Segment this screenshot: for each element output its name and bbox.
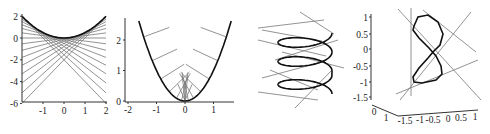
y-tick-label: -1 xyxy=(416,115,424,125)
y-tick-label: 2 xyxy=(116,36,121,46)
plot-1-tangent-parabola: 20-2-4-6-1012 xyxy=(10,12,109,116)
normal-segment xyxy=(201,27,227,36)
x-tick-label: 0 xyxy=(183,105,188,115)
plot-3-tangent-lines xyxy=(258,12,344,108)
plot-4-axes: 10.50-0.5-1-1.501-1.5-1-0.500.51 xyxy=(353,13,478,127)
y-tick-label: 1 xyxy=(473,112,478,122)
tangent-line xyxy=(396,60,478,94)
y-tick-label: -1.5 xyxy=(397,116,412,126)
z-tick-label: -1.5 xyxy=(353,93,368,103)
y-tick-label: 2 xyxy=(13,12,18,22)
y-tick-label: 0.5 xyxy=(455,113,467,123)
y-tick-label: -6 xyxy=(10,99,18,109)
plot-2-normal-lines xyxy=(144,27,227,100)
y-tick-label: -0.5 xyxy=(425,115,440,125)
y-tick-label: 0 xyxy=(13,34,18,44)
y-tick-label: -4 xyxy=(10,77,18,87)
x-tick-label: -2 xyxy=(124,105,132,115)
plot-4-figure-eight-curve xyxy=(413,15,443,83)
z-tick-label: -1 xyxy=(360,78,368,88)
x-tick-label: 1 xyxy=(83,106,88,116)
tangent-line xyxy=(300,12,334,34)
x-tick-label: 0 xyxy=(62,106,67,116)
plot-1-tangent-lines xyxy=(22,16,106,103)
plot-4-figure-eight: 10.50-0.5-1-1.501-1.5-1-0.500.51 xyxy=(353,8,481,126)
z-tick-label: 1 xyxy=(363,13,368,23)
normal-segment xyxy=(144,27,170,36)
normal-segment xyxy=(186,64,209,79)
x-tick-label: -1 xyxy=(39,106,47,116)
x-tick-label: 2 xyxy=(104,106,109,116)
normal-segment xyxy=(152,49,177,61)
z-tick-label: 0 xyxy=(363,45,368,55)
x-tick-label: -1 xyxy=(153,105,161,115)
normal-segment xyxy=(193,49,218,61)
y-tick-label: 0 xyxy=(446,114,451,124)
z-tick-label: -0.5 xyxy=(353,62,368,72)
tangent-line xyxy=(258,40,326,56)
x-tick-label: 0 xyxy=(372,107,377,117)
plot-3-helix xyxy=(258,12,344,108)
plot-2-normal-parabola: 210-2-101 xyxy=(116,18,234,115)
x-tick-label: 1 xyxy=(211,105,216,115)
y-tick-label: -2 xyxy=(10,55,18,65)
z-tick-label: 0.5 xyxy=(356,30,368,40)
x-tick-label: 1 xyxy=(384,113,389,123)
plot-2-axes: 210-2-101 xyxy=(116,18,234,115)
normal-segment xyxy=(161,64,184,79)
y-tick-label: 1 xyxy=(116,66,121,76)
y-tick-label: 0 xyxy=(116,97,121,107)
figure-canvas: 20-2-4-6-1012 210-2-101 10.50-0.5-1-1.50… xyxy=(0,0,490,134)
